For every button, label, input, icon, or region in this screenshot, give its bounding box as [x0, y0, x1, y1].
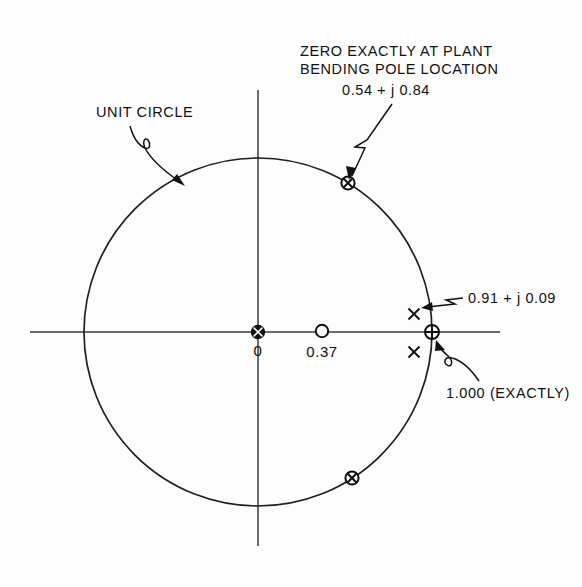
- unit-circle-label: UNIT CIRCLE: [96, 104, 193, 120]
- unit-point-marker: [424, 324, 439, 339]
- figure-root: 0 0.37: [0, 0, 582, 587]
- unit-point-leader-line: [439, 346, 479, 381]
- pole-marker-lower: [409, 347, 420, 358]
- pole-value-arrowhead: [421, 302, 433, 311]
- pole-value-label: 0.91 + j 0.09: [468, 290, 556, 306]
- zero-note-leader-line: [352, 104, 392, 176]
- zero-marker-lower: [345, 471, 358, 484]
- mid-tick-label: 0.37: [306, 343, 338, 360]
- unit-circle-leader-line: [130, 126, 180, 182]
- zero-note-line2: BENDING POLE LOCATION: [300, 61, 498, 77]
- mid-open-circle-marker: [316, 325, 328, 337]
- unit-point-arrowhead: [435, 340, 445, 351]
- zero-note-line1: ZERO EXACTLY AT PLANT: [300, 43, 493, 59]
- zero-note-value: 0.54 + j 0.84: [342, 82, 430, 98]
- pole-marker-upper: [409, 309, 420, 320]
- unit-point-label: 1.000 (EXACTLY): [446, 385, 570, 401]
- origin-zero-marker: [252, 326, 265, 339]
- zero-marker-upper: [341, 176, 354, 189]
- unit-circle-plot: 0 0.37: [0, 0, 582, 587]
- origin-tick-label: 0: [254, 342, 263, 359]
